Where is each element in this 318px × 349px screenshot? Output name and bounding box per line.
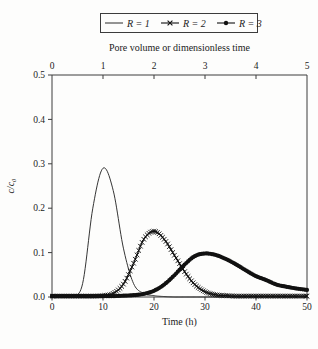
legend-entry-r3: R = 3 <box>217 18 262 29</box>
dot-marker-icon <box>224 21 228 25</box>
svg-text:30: 30 <box>200 302 210 312</box>
legend-entry-r1: R = 1 <box>105 18 150 29</box>
chart-canvas: 010203040500123450.00.10.20.30.40.5 R = … <box>0 0 318 349</box>
tick-labels: 010203040500123450.00.10.20.30.40.5 <box>33 61 312 312</box>
legend-label-r3: R = 3 <box>238 18 262 29</box>
data-curves <box>50 168 310 299</box>
svg-text:10: 10 <box>98 302 108 312</box>
svg-text:0.0: 0.0 <box>33 292 45 302</box>
svg-text:0.4: 0.4 <box>33 115 45 125</box>
y-axis-title: c/c₀ <box>5 178 16 194</box>
svg-text:50: 50 <box>302 302 312 312</box>
svg-text:0: 0 <box>50 302 55 312</box>
tick-marks <box>48 75 307 301</box>
svg-text:40: 40 <box>251 302 261 312</box>
x-axis-title: Time (h) <box>162 316 197 328</box>
legend-entry-r2: R = 2 <box>161 18 206 29</box>
series-r3 <box>50 251 309 298</box>
legend-label-r2: R = 2 <box>182 18 206 29</box>
plot-area: 010203040500123450.00.10.20.30.40.5 <box>33 61 312 312</box>
legend-label-r1: R = 1 <box>126 18 150 29</box>
svg-text:0: 0 <box>50 61 55 71</box>
svg-text:0.5: 0.5 <box>33 70 45 80</box>
svg-text:0.1: 0.1 <box>33 248 45 258</box>
figure: 010203040500123450.00.10.20.30.40.5 R = … <box>0 0 318 349</box>
top-axis-title: Pore volume or dimensionless time <box>109 42 251 53</box>
svg-text:3: 3 <box>203 61 208 71</box>
svg-text:4: 4 <box>254 61 259 71</box>
svg-text:2: 2 <box>152 61 157 71</box>
svg-text:0.3: 0.3 <box>33 159 45 169</box>
svg-text:20: 20 <box>149 302 159 312</box>
legend: R = 1 R = 2 R = 3 <box>101 14 262 33</box>
svg-text:1: 1 <box>101 61 106 71</box>
svg-text:0.2: 0.2 <box>33 203 45 213</box>
series-r1 <box>52 168 307 298</box>
svg-text:5: 5 <box>305 61 310 71</box>
